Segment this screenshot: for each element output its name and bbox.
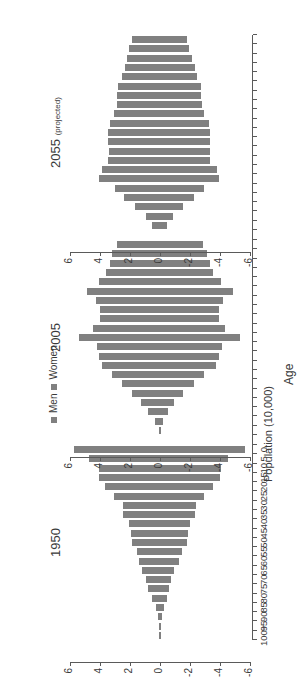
age-axis-line xyxy=(252,35,254,640)
age-label-40: 40 xyxy=(258,519,269,530)
age-tick-2005-5 xyxy=(253,388,257,389)
bar-women-2005-age-25 xyxy=(87,288,161,295)
age-tick-2005-18 xyxy=(253,267,257,268)
value-tick-label-2055-0: 0 xyxy=(153,258,164,278)
value-tick-2005-0 xyxy=(160,457,161,461)
value-tick-2005--6 xyxy=(250,457,251,461)
value-tick-1950-0 xyxy=(160,662,161,666)
value-tick-1950--4 xyxy=(220,662,221,666)
bar-men-1950-age-80 xyxy=(160,595,167,602)
bar-men-2055-age-80 xyxy=(160,185,204,192)
age-tick-1950-19 xyxy=(253,463,257,464)
age-label-60: 60 xyxy=(258,556,269,567)
age-label-65: 65 xyxy=(258,565,269,576)
value-tick-2005-4 xyxy=(100,457,101,461)
bar-men-1950-age-40 xyxy=(160,520,190,527)
age-label-70: 70 xyxy=(258,574,269,585)
age-tick-1950-20 xyxy=(253,453,257,454)
age-label-30: 30 xyxy=(258,500,269,511)
bar-women-1950-age-85 xyxy=(156,604,160,611)
age-tick-1950-21 xyxy=(253,444,257,445)
bar-women-2005-age-30 xyxy=(96,297,160,304)
age-tick-1950-16 xyxy=(253,490,257,491)
bar-men-2005-age-40 xyxy=(160,315,219,322)
bar-women-2055-age-10 xyxy=(127,55,160,62)
age-tick-2005-2 xyxy=(253,415,257,416)
age-tick-2055-5 xyxy=(253,183,257,184)
bar-men-1950-age-0 xyxy=(160,446,245,453)
bar-women-2055-age-20 xyxy=(122,73,160,80)
bar-women-2005-age-100+ xyxy=(159,427,161,434)
age-tick-2055-18 xyxy=(253,62,257,63)
bar-men-1950-age-50 xyxy=(160,539,187,546)
bar-women-1950-age-35 xyxy=(123,511,160,518)
bar-women-1950-age-30 xyxy=(123,502,161,509)
panel-title-2055: 2055 (projected) xyxy=(48,35,63,230)
bar-men-1950-age-45 xyxy=(160,530,188,537)
value-tick-1950-2 xyxy=(130,662,131,666)
value-tick-2055--4 xyxy=(220,252,221,256)
bar-men-2005-age-30 xyxy=(160,297,223,304)
age-tick-2055-1 xyxy=(253,220,257,221)
bar-women-2005-age-95 xyxy=(155,418,160,425)
bar-women-2005-age-75 xyxy=(122,380,160,387)
bar-women-2005-age-50 xyxy=(79,334,160,341)
bar-men-2005-age-25 xyxy=(160,288,233,295)
bar-women-2005-age-0 xyxy=(117,241,161,248)
value-tick-label-2055-2: 2 xyxy=(123,258,134,278)
bar-women-1950-age-25 xyxy=(114,493,160,500)
bar-men-2055-age-0 xyxy=(160,36,187,43)
bar-men-2055-age-85 xyxy=(160,194,194,201)
age-tick-1950-8 xyxy=(253,565,257,566)
plot-area-2055 xyxy=(70,35,250,230)
bar-men-2055-age-65 xyxy=(160,157,210,164)
bar-women-2005-age-90 xyxy=(148,408,160,415)
bar-men-2005-age-65 xyxy=(160,362,216,369)
age-tick-2055-13 xyxy=(253,108,257,109)
age-tick-2005-12 xyxy=(253,323,257,324)
age-tick-2055-12 xyxy=(253,118,257,119)
age-tick-1950-7 xyxy=(253,574,257,575)
age-tick-2055-14 xyxy=(253,99,257,100)
value-tick-label-1950--6: -6 xyxy=(243,668,254,685)
panel-title-2055-year: 2055 xyxy=(48,139,63,168)
bar-men-1950-age-35 xyxy=(160,511,195,518)
bar-men-2005-age-0 xyxy=(160,241,203,248)
bar-women-2055-age-85 xyxy=(124,194,160,201)
panel-title-2055-subtitle: (projected) xyxy=(53,97,62,135)
bar-men-2055-age-15 xyxy=(160,64,195,71)
bar-women-2055-age-30 xyxy=(117,92,160,99)
bar-women-2005-age-20 xyxy=(99,278,161,285)
bar-women-2005-age-55 xyxy=(97,343,160,350)
age-tick-1950-13 xyxy=(253,518,257,519)
bar-women-1950-age-55 xyxy=(137,548,160,555)
age-tick-1950-12 xyxy=(253,528,257,529)
age-label-35: 35 xyxy=(258,509,269,520)
age-tick-2055-16 xyxy=(253,80,257,81)
value-tick-label-2055--2: -2 xyxy=(183,258,194,278)
bar-women-2005-age-60 xyxy=(99,353,160,360)
age-tick-2055-20 xyxy=(253,43,257,44)
bar-women-2055-age-5 xyxy=(129,45,160,52)
bar-women-1950-age-20 xyxy=(105,483,161,490)
bar-women-1950-age-45 xyxy=(131,530,160,537)
age-axis-title: Age xyxy=(282,364,296,385)
age-tick-2005-6 xyxy=(253,378,257,379)
bar-women-1950-age-90 xyxy=(158,613,160,620)
bar-men-1950-age-75 xyxy=(160,585,169,592)
age-tick-2005-0 xyxy=(253,434,257,435)
bar-men-1950-age-95 xyxy=(160,623,161,630)
panel-title-2005-year: 2005 xyxy=(48,323,63,352)
bar-men-1950-age-60 xyxy=(160,558,179,565)
bar-women-2005-age-40 xyxy=(100,315,160,322)
bar-women-2055-age-90 xyxy=(135,203,161,210)
age-tick-1950-18 xyxy=(253,472,257,473)
bar-women-2055-age-95 xyxy=(146,213,160,220)
age-tick-2005-15 xyxy=(253,295,257,296)
bar-women-1950-age-100+ xyxy=(159,632,160,639)
bar-men-2055-age-50 xyxy=(160,129,210,136)
bar-men-2005-age-100+ xyxy=(160,427,161,434)
bar-women-1950-age-70 xyxy=(146,576,160,583)
value-tick-2055-6 xyxy=(70,252,71,256)
bar-men-2055-age-35 xyxy=(160,101,202,108)
